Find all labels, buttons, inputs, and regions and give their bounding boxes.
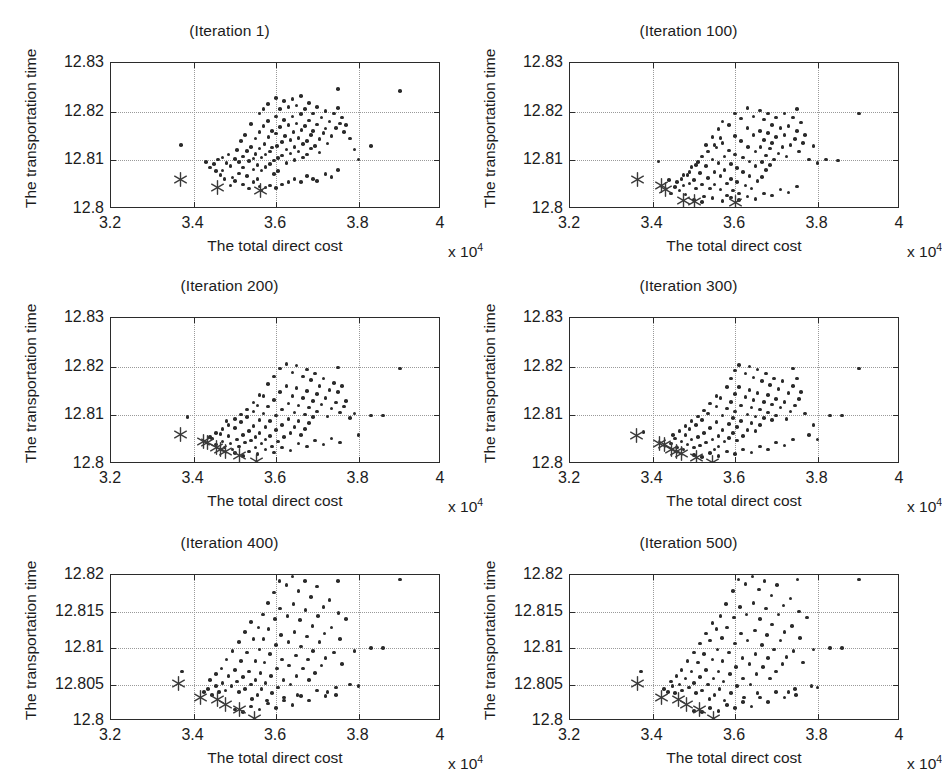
data-point	[721, 428, 725, 432]
data-point	[774, 135, 778, 139]
data-point	[801, 661, 805, 665]
x-axis-tick	[818, 318, 819, 323]
data-point	[266, 601, 270, 605]
y-tick-label: 12.805	[55, 675, 104, 693]
data-point	[727, 149, 731, 153]
data-point	[754, 415, 758, 419]
y-tick-label: 12.81	[523, 405, 563, 423]
data-point	[289, 431, 293, 435]
data-point	[250, 697, 254, 701]
x-axis-tick	[359, 63, 360, 68]
data-point	[260, 687, 264, 691]
data-point	[381, 646, 385, 650]
data-point	[293, 145, 297, 149]
data-point	[328, 388, 332, 392]
data-point	[749, 683, 753, 687]
data-point	[357, 684, 361, 688]
data-point	[324, 127, 328, 131]
gridline-vertical	[818, 575, 819, 719]
x-axis-label: The total direct cost	[110, 237, 440, 255]
data-point	[237, 160, 241, 164]
data-point	[698, 171, 702, 175]
data-point	[258, 130, 262, 134]
data-point	[758, 408, 762, 412]
data-point	[727, 651, 731, 655]
x-tick-label: 3.4	[640, 214, 662, 232]
data-point	[752, 601, 756, 605]
data-point	[791, 384, 795, 388]
data-point	[724, 602, 728, 606]
x-axis-tick	[194, 575, 195, 580]
plot-area	[110, 62, 440, 208]
data-point	[702, 195, 706, 199]
data-point	[750, 406, 754, 410]
data-point	[264, 448, 268, 452]
data-point	[735, 180, 739, 184]
data-point	[293, 425, 297, 429]
data-point	[245, 651, 249, 655]
data-point	[737, 363, 741, 367]
data-point	[775, 583, 779, 587]
data-point	[680, 668, 684, 672]
data-point	[315, 179, 319, 183]
data-point	[239, 659, 243, 663]
data-point	[741, 448, 745, 452]
data-point	[794, 693, 798, 697]
data-point	[348, 137, 352, 141]
data-point	[266, 702, 270, 706]
data-point	[729, 162, 733, 166]
data-point	[247, 670, 251, 674]
data-point	[761, 665, 765, 669]
data-point	[301, 142, 305, 146]
data-point	[696, 661, 700, 665]
data-point	[272, 398, 276, 402]
data-point	[216, 158, 220, 162]
data-point	[326, 142, 330, 146]
exponent-base: x 10	[907, 755, 936, 772]
data-point	[692, 178, 696, 182]
data-point	[324, 694, 328, 698]
data-point	[257, 626, 261, 630]
data-point	[247, 429, 251, 433]
data-point	[791, 438, 795, 442]
panel-title: (Iteration 500)	[459, 534, 918, 552]
gridline-horizontal	[111, 112, 439, 113]
data-point	[241, 155, 245, 159]
data-point	[287, 105, 291, 109]
data-point	[180, 670, 184, 674]
data-point	[311, 129, 315, 133]
gridline-vertical	[818, 63, 819, 207]
data-point	[734, 665, 738, 669]
data-point	[742, 696, 746, 700]
data-point	[227, 153, 231, 157]
pareto-star-marker	[629, 428, 644, 443]
data-point	[338, 411, 342, 415]
data-point	[713, 448, 717, 452]
data-point	[750, 187, 754, 191]
gridline-horizontal	[570, 367, 898, 368]
data-point	[698, 675, 702, 679]
data-point	[262, 124, 266, 128]
data-point	[299, 433, 303, 437]
data-point	[227, 423, 231, 427]
data-point	[717, 445, 721, 449]
y-tick-label: 12.82	[64, 357, 104, 375]
data-point	[241, 166, 245, 170]
data-point	[774, 441, 778, 445]
data-point	[770, 594, 774, 598]
data-point	[777, 387, 781, 391]
y-axis-tick	[570, 648, 575, 649]
data-point	[258, 112, 262, 116]
data-point	[791, 116, 795, 120]
data-point	[795, 129, 799, 133]
data-point	[799, 121, 803, 125]
data-point	[719, 136, 723, 140]
pareto-star-marker	[173, 172, 188, 187]
data-point	[729, 177, 733, 181]
data-point	[783, 444, 787, 448]
data-point	[816, 686, 820, 690]
data-point	[762, 416, 766, 420]
data-point	[227, 434, 231, 438]
data-point	[291, 575, 295, 579]
data-point	[332, 112, 336, 116]
